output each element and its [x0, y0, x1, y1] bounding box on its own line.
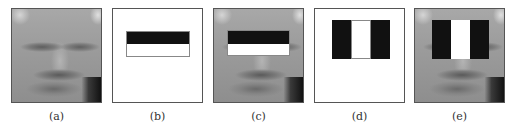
feature-dark-left	[432, 20, 451, 59]
panel-a-label: (a)	[11, 110, 102, 123]
panel-b-feature	[112, 8, 203, 103]
panel-d-feature	[314, 8, 405, 103]
panel-e-face-with-feature	[414, 8, 505, 103]
panel-d-label: (d)	[314, 110, 405, 123]
three-rect-feature-overlay	[432, 20, 489, 59]
feature-light-center	[451, 20, 470, 59]
feature-light-region	[127, 44, 189, 56]
panel-b-label: (b)	[112, 110, 203, 123]
feature-dark-right	[470, 20, 489, 59]
feature-dark-left	[332, 20, 351, 59]
two-rect-feature-overlay	[227, 30, 290, 56]
feature-dark-region	[127, 32, 189, 44]
feature-light-region	[228, 44, 289, 55]
panel-e-label: (e)	[414, 110, 505, 123]
panel-c-face-with-feature	[213, 8, 304, 103]
feature-dark-right	[371, 20, 390, 59]
three-rect-feature	[332, 20, 390, 59]
two-rect-feature	[126, 31, 190, 57]
panel-c-label: (c)	[213, 110, 304, 123]
feature-light-center	[351, 20, 371, 59]
panel-a-face-image	[11, 8, 102, 103]
feature-dark-region	[228, 31, 289, 44]
